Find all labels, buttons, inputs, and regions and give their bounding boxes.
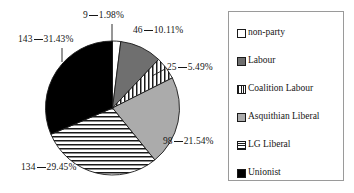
legend-item-lg-liberal[interactable]: LG Liberal: [237, 131, 343, 159]
legend-swatch-icon: [237, 57, 246, 66]
legend-swatch-icon: [237, 29, 246, 38]
legend-item-unionist[interactable]: Unionist: [237, 159, 343, 187]
legend-swatch-icon: [237, 85, 246, 94]
slice-value-asquithian-liberal: 98: [163, 136, 173, 146]
slice-label-lg-liberal: 13429.45%: [21, 163, 76, 173]
legend-item-label: non-party: [248, 28, 285, 38]
label-separator: [34, 39, 43, 40]
slice-percent-coalition-labour: 5.49%: [188, 62, 213, 72]
pie-chart-figure: 91.98% 4610.11% 255.49% 9821.54% 13429.4…: [0, 0, 354, 193]
legend-swatch-icon: [237, 113, 246, 122]
pie-chart-area: 91.98% 4610.11% 255.49% 9821.54% 13429.4…: [0, 0, 225, 193]
slice-value-coalition-labour: 25: [167, 62, 177, 72]
legend-item-labour[interactable]: Labour: [237, 47, 343, 75]
legend-item-non-party[interactable]: non-party: [237, 19, 343, 47]
chart-legend: non-partyLabourCoalition LabourAsquithia…: [228, 11, 344, 181]
pie-slices: [45, 41, 179, 175]
slice-label-labour: 4610.11%: [133, 26, 183, 36]
slice-value-unionist: 143: [18, 34, 33, 44]
legend-item-label: Coalition Labour: [248, 84, 313, 94]
legend-item-label: Labour: [248, 56, 275, 66]
label-separator: [37, 167, 46, 168]
slice-label-non-party: 91.98%: [83, 11, 124, 21]
label-separator: [89, 15, 98, 16]
legend-item-label: LG Liberal: [248, 140, 290, 150]
legend-swatch-icon: [237, 141, 246, 150]
legend-item-coalition-labour[interactable]: Coalition Labour: [237, 75, 343, 103]
slice-value-non-party: 9: [83, 10, 88, 20]
label-separator: [178, 67, 187, 68]
label-separator: [144, 30, 153, 31]
label-separator: [174, 141, 183, 142]
slice-percent-non-party: 1.98%: [99, 10, 124, 20]
legend-item-label: Asquithian Liberal: [248, 112, 320, 122]
slice-label-asquithian-liberal: 9821.54%: [163, 137, 214, 147]
legend-swatch-icon: [237, 169, 246, 178]
slice-value-lg-liberal: 134: [21, 162, 36, 172]
slice-percent-asquithian-liberal: 21.54%: [184, 136, 214, 146]
slice-percent-unionist: 31.43%: [44, 34, 74, 44]
legend-item-asquithian-liberal[interactable]: Asquithian Liberal: [237, 103, 343, 131]
slice-value-labour: 46: [133, 25, 143, 35]
slice-label-unionist: 14331.43%: [18, 35, 73, 45]
legend-item-label: Unionist: [248, 168, 281, 178]
slice-label-coalition-labour: 255.49%: [167, 63, 213, 73]
slice-percent-lg-liberal: 29.45%: [47, 162, 77, 172]
slice-percent-labour: 10.11%: [154, 25, 184, 35]
